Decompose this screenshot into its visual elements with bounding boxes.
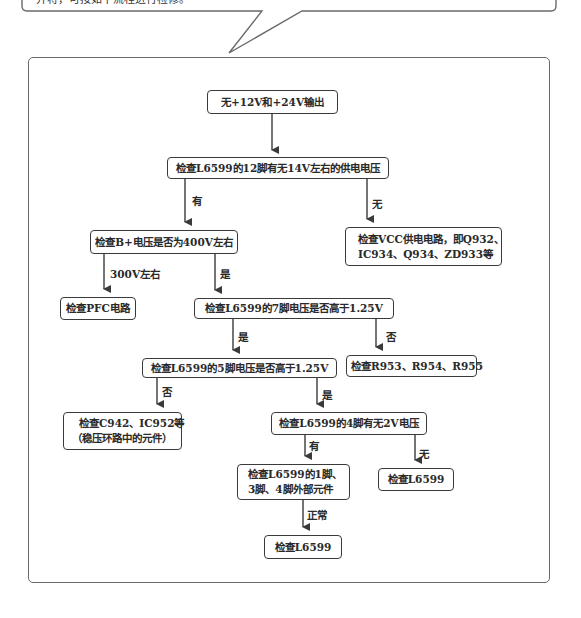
flowchart-frame <box>28 57 550 583</box>
edge-label-pin7-no: 否 <box>386 331 396 343</box>
flowchart-canvas: 并将，可按如下流程进行检修。 无+12V和+24V输出 检查L6599的12脚有… <box>0 0 581 618</box>
node-check-pin7-text: 检查L6599的7脚电压是否高于1.25V <box>205 301 383 316</box>
node-check-vcc-line1: 检查VCC供电电路，即Q932、 <box>358 232 504 247</box>
node-check-vcc-line2: IC934、Q934、ZD933等 <box>358 247 493 262</box>
edge-label-pin12-yes: 有 <box>192 195 202 207</box>
node-check-bplus-text: 检查B+电压是否为400V左右 <box>95 235 233 250</box>
node-check-pin7: 检查L6599的7脚电压是否高于1.25V <box>194 298 394 319</box>
node-check-c942-line2: （稳压环路中的元件） <box>72 431 172 446</box>
callout-bubble <box>22 0 556 53</box>
node-check-l6599-right-text: 检查L6599 <box>388 472 445 487</box>
node-check-pin5: 检查L6599的5脚电压是否高于1.25V <box>142 358 337 378</box>
node-check-pin134-line2: 3脚、4脚外部元件 <box>248 482 333 497</box>
node-check-l6599-bottom-text: 检查L6599 <box>275 540 332 555</box>
node-check-pin12: 检查L6599的12脚有无14V左右的供电电压 <box>167 157 389 179</box>
node-check-vcc: 检查VCC供电电路，即Q932、 IC934、Q934、ZD933等 <box>345 227 502 266</box>
node-check-pfc-text: 检查PFC电路 <box>66 301 130 316</box>
node-check-pin12-text: 检查L6599的12脚有无14V左右的供电电压 <box>176 161 380 176</box>
edge-label-pin5-yes: 是 <box>322 389 332 401</box>
node-check-c942: 检查C942、IC952等 （稳压环路中的元件） <box>63 412 182 450</box>
node-check-pin5-text: 检查L6599的5脚电压是否高于1.25V <box>151 361 329 376</box>
node-start: 无+12V和+24V输出 <box>207 90 338 114</box>
node-check-l6599-bottom: 检查L6599 <box>264 535 342 559</box>
edge-label-pin4-no: 无 <box>419 448 429 460</box>
node-start-text: 无+12V和+24V输出 <box>221 95 324 110</box>
node-check-pin4-text: 检查L6599的4脚有无2V电压 <box>279 416 418 431</box>
node-check-l6599-right: 检查L6599 <box>378 468 454 491</box>
node-check-pin134-line1: 检查L6599的1脚、 <box>248 467 342 482</box>
node-check-pin4: 检查L6599的4脚有无2V电压 <box>271 412 427 435</box>
edge-label-bplus-yes: 是 <box>220 268 230 280</box>
edge-label-pin4-yes: 有 <box>309 440 319 452</box>
node-check-c942-line1: 检查C942、IC952等 <box>72 416 184 431</box>
node-check-bplus: 检查B+电压是否为400V左右 <box>90 230 238 254</box>
edge-label-pin12-no: 无 <box>372 198 382 210</box>
edge-label-pin7-yes: 是 <box>238 331 248 343</box>
node-check-pfc: 检查PFC电路 <box>60 297 136 320</box>
node-check-pin134: 检查L6599的1脚、 3脚、4脚外部元件 <box>237 464 350 500</box>
callout-text: 并将，可按如下流程进行检修。 <box>36 0 190 7</box>
edge-label-pin5-no: 否 <box>162 386 172 398</box>
edge-label-pin134-normal: 正常 <box>307 509 327 521</box>
node-check-r953: 检查R953、R954、R955 <box>346 355 477 377</box>
edge-label-bplus-300v: 300V左右 <box>110 268 160 280</box>
node-check-r953-text: 检查R953、R954、R955 <box>351 359 483 374</box>
